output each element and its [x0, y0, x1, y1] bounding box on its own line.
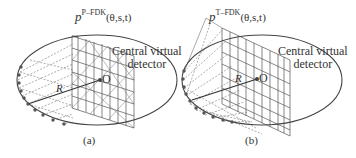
title-superscript-b: T–FDK	[216, 8, 241, 17]
radius-line-a	[28, 80, 100, 104]
detector-label-line2-b: detector	[278, 58, 348, 71]
source-positions-a	[17, 65, 65, 125]
projection-title-b: pT–FDK(θ,s,t)	[209, 8, 266, 25]
title-args-a: (θ,s,t)	[106, 11, 131, 23]
origin-label-a: O	[102, 72, 111, 87]
origin-label-b: O	[259, 71, 268, 86]
fan-rays-a	[18, 44, 73, 124]
diagram-canvas	[0, 0, 356, 158]
caption-a: (a)	[83, 134, 95, 146]
radius-label-b: R	[235, 72, 242, 84]
radius-label-a: R	[56, 82, 63, 94]
radius-line-b	[192, 79, 257, 100]
title-superscript-a: P–FDK	[82, 8, 106, 17]
detector-label-line2-a: detector	[112, 58, 182, 71]
detector-label-a: Central virtual detector	[112, 45, 182, 71]
projection-title-a: pP–FDK(θ,s,t)	[75, 8, 131, 25]
detector-label-b: Central virtual detector	[278, 45, 348, 71]
caption-b: (b)	[245, 134, 258, 146]
title-args-b: (θ,s,t)	[240, 11, 265, 23]
